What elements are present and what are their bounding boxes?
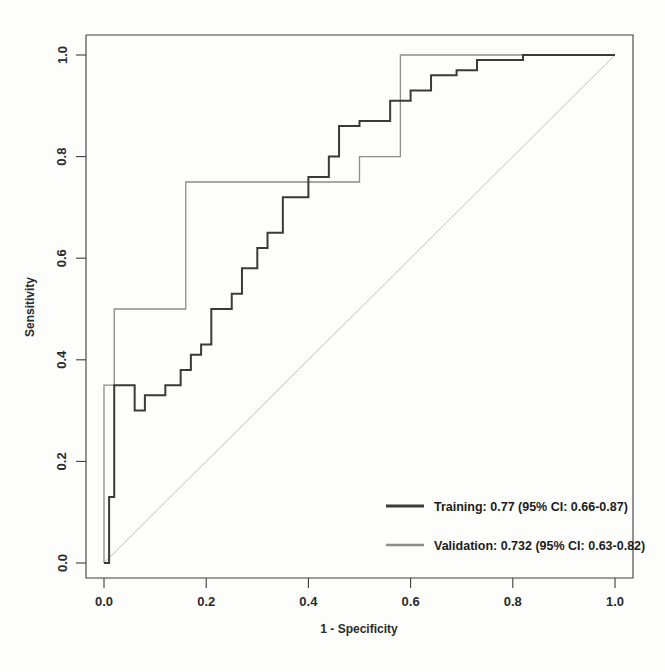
legend-label-validation: Validation: 0.732 (95% CI: 0.63-0.82) <box>434 539 645 553</box>
x-tick-label: 1.0 <box>606 594 624 609</box>
x-tick-label: 0.2 <box>197 594 215 609</box>
y-axis-title: Sensitivity <box>23 277 37 337</box>
y-tick-label: 0.0 <box>55 554 70 572</box>
legend-label-training: Training: 0.77 (95% CI: 0.66-0.87) <box>434 500 628 514</box>
x-axis-title: 1 - Specificity <box>320 622 398 636</box>
roc-curve-figure: 0.00.20.40.60.81.0 0.00.20.40.60.81.0 1 … <box>0 0 665 672</box>
y-tick-label: 0.6 <box>55 249 70 267</box>
x-tick-label: 0.4 <box>299 594 318 609</box>
y-tick-label: 0.4 <box>55 350 70 369</box>
x-tick-label: 0.8 <box>504 594 522 609</box>
roc-plot-svg: 0.00.20.40.60.81.0 0.00.20.40.60.81.0 1 … <box>0 0 665 672</box>
y-tick-label: 1.0 <box>55 46 70 64</box>
y-tick-label: 0.8 <box>55 148 70 166</box>
x-tick-label: 0.6 <box>402 594 420 609</box>
y-tick-label: 0.2 <box>55 452 70 470</box>
x-tick-label: 0.0 <box>95 594 113 609</box>
